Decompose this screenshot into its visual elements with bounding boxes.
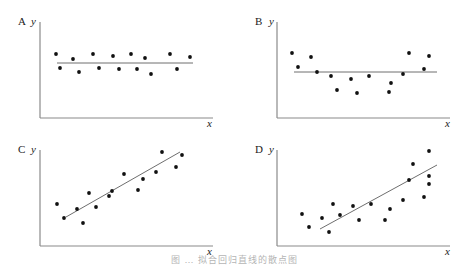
panel-b-label: B — [255, 15, 262, 27]
panel-a-label: A — [18, 15, 26, 27]
data-point — [174, 165, 178, 169]
data-point — [91, 52, 95, 56]
panel-a-y-axis-label: y — [31, 15, 36, 27]
regression-line — [320, 165, 437, 229]
data-point — [422, 67, 426, 71]
data-point — [129, 52, 133, 56]
panel-c-plot — [40, 150, 213, 246]
data-point — [75, 207, 79, 211]
data-point — [367, 74, 371, 78]
data-point — [331, 202, 335, 206]
data-point — [401, 72, 405, 76]
data-point — [135, 67, 139, 71]
data-point — [97, 66, 101, 70]
data-point — [300, 212, 304, 216]
data-point — [407, 51, 411, 55]
data-point — [81, 221, 85, 225]
panel-c-label: C — [18, 143, 25, 155]
data-point — [387, 90, 391, 94]
data-point — [154, 170, 158, 174]
data-point — [309, 55, 313, 59]
data-point — [335, 88, 339, 92]
data-point — [94, 205, 98, 209]
scatter-figure — [0, 0, 469, 269]
data-point — [188, 55, 192, 59]
data-point — [141, 177, 145, 181]
data-point — [411, 162, 415, 166]
data-point — [117, 67, 121, 71]
data-point — [180, 153, 184, 157]
data-point — [351, 204, 355, 208]
data-point — [315, 70, 319, 74]
data-point — [389, 81, 393, 85]
panel-d-plot — [277, 149, 450, 246]
data-point — [320, 216, 324, 220]
panel-a-x-axis-label: x — [207, 117, 212, 129]
data-point — [327, 230, 331, 234]
data-point — [427, 149, 431, 153]
data-point — [296, 65, 300, 69]
data-point — [149, 72, 153, 76]
panel-d-y-axis-label: y — [269, 143, 274, 155]
data-point — [427, 174, 431, 178]
panel-a-plot — [40, 22, 213, 118]
panel-c-y-axis-label: y — [31, 143, 36, 155]
data-point — [407, 178, 411, 182]
panel-b-plot — [277, 22, 450, 118]
data-point — [349, 77, 353, 81]
data-point — [427, 182, 431, 186]
data-point — [77, 70, 81, 74]
data-point — [427, 54, 431, 58]
data-point — [160, 150, 164, 154]
data-point — [62, 216, 66, 220]
data-point — [290, 51, 294, 55]
panel-d-label: D — [255, 143, 263, 155]
data-point — [71, 57, 75, 61]
data-point — [136, 188, 140, 192]
data-point — [54, 52, 58, 56]
data-point — [175, 67, 179, 71]
data-point — [58, 66, 62, 70]
panel-b-x-axis-label: x — [445, 117, 450, 129]
data-point — [355, 91, 359, 95]
data-point — [107, 194, 111, 198]
data-point — [401, 198, 405, 202]
data-point — [111, 54, 115, 58]
data-point — [55, 202, 59, 206]
regression-line — [66, 152, 180, 217]
data-point — [122, 172, 126, 176]
data-point — [338, 213, 342, 217]
data-point — [422, 195, 426, 199]
data-point — [369, 202, 373, 206]
data-point — [87, 191, 91, 195]
data-point — [307, 225, 311, 229]
data-point — [143, 56, 147, 60]
data-point — [383, 218, 387, 222]
figure-caption: 图 … 拟合回归直线的散点图 — [0, 253, 469, 266]
panel-b-y-axis-label: y — [269, 15, 274, 27]
data-point — [110, 189, 114, 193]
data-point — [388, 207, 392, 211]
data-point — [168, 52, 172, 56]
data-point — [329, 74, 333, 78]
data-point — [357, 218, 361, 222]
